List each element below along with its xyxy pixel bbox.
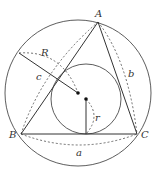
dimension-arc-r bbox=[86, 99, 94, 134]
label-side-c: c bbox=[36, 71, 42, 82]
vertex-label-c: C bbox=[141, 129, 149, 140]
circumradius-line bbox=[19, 53, 78, 93]
label-inradius: r bbox=[95, 112, 101, 123]
label-side-b: b bbox=[128, 68, 134, 79]
diagram-canvas: A B C R r a b c bbox=[0, 0, 155, 170]
label-circumradius: R bbox=[40, 47, 49, 58]
circumcenter-dot bbox=[76, 91, 80, 95]
vertex-label-a: A bbox=[94, 8, 102, 19]
dimension-arc-a bbox=[21, 134, 137, 145]
triangle-circles-diagram: A B C R r a b c bbox=[0, 0, 155, 170]
label-side-a: a bbox=[76, 147, 82, 158]
incenter-dot bbox=[84, 97, 88, 101]
vertex-label-b: B bbox=[8, 129, 16, 140]
